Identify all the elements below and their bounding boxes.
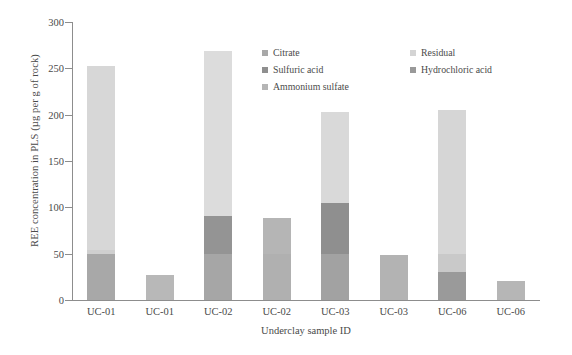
- bar-segment[interactable]: [87, 254, 115, 300]
- legend-item[interactable]: Residual: [410, 44, 492, 61]
- bar-segment[interactable]: [321, 254, 349, 300]
- y-tick-label: 100: [26, 202, 64, 213]
- legend-item-label: Sulfuric acid: [273, 64, 323, 75]
- y-tick-label: 300: [26, 17, 64, 28]
- bar-slot: [131, 22, 190, 300]
- stacked-bar[interactable]: [263, 218, 291, 300]
- bar-slot: [72, 22, 131, 300]
- legend-swatch-icon: [410, 50, 416, 56]
- bar-chart: REE concentration in PLS (µg per g of ro…: [0, 0, 572, 355]
- x-tick-label: UC-06: [482, 306, 541, 317]
- legend-column-2: ResidualHydrochloric acid: [410, 44, 492, 78]
- x-tick-label: UC-02: [189, 306, 248, 317]
- x-tick-label: UC-03: [306, 306, 365, 317]
- y-tick: [65, 22, 72, 23]
- legend-item[interactable]: Hydrochloric acid: [410, 61, 492, 78]
- bar-segment[interactable]: [87, 250, 115, 254]
- y-tick: [65, 161, 72, 162]
- stacked-bar[interactable]: [497, 281, 525, 300]
- bar-segment[interactable]: [321, 203, 349, 254]
- stacked-bar[interactable]: [87, 66, 115, 300]
- stacked-bar[interactable]: [146, 275, 174, 300]
- x-tick-label: UC-03: [365, 306, 424, 317]
- legend-swatch-icon: [262, 67, 268, 73]
- legend-column-1: CitrateSulfuric acidAmmonium sulfate: [262, 44, 349, 95]
- y-tick: [65, 115, 72, 116]
- stacked-bar[interactable]: [380, 255, 408, 300]
- y-tick: [65, 300, 72, 301]
- bar-segment[interactable]: [438, 254, 466, 273]
- legend-swatch-icon: [262, 50, 268, 56]
- legend-item[interactable]: Ammonium sulfate: [262, 78, 349, 95]
- y-tick-label: 50: [26, 248, 64, 259]
- y-tick-label: 250: [26, 63, 64, 74]
- bar-segment[interactable]: [497, 281, 525, 300]
- x-tick-label: UC-01: [131, 306, 190, 317]
- bar-segment[interactable]: [204, 254, 232, 300]
- y-tick-label: 200: [26, 109, 64, 120]
- y-axis-title: REE concentration in PLS (µg per g of ro…: [29, 21, 40, 281]
- y-tick: [65, 254, 72, 255]
- legend-item-label: Ammonium sulfate: [273, 81, 349, 92]
- legend-swatch-icon: [262, 84, 268, 90]
- bar-segment[interactable]: [204, 216, 232, 254]
- bar-segment[interactable]: [380, 255, 408, 300]
- bar-segment[interactable]: [146, 275, 174, 300]
- legend-item[interactable]: Sulfuric acid: [262, 61, 349, 78]
- legend-item-label: Hydrochloric acid: [421, 64, 492, 75]
- y-tick: [65, 68, 72, 69]
- legend-item[interactable]: Citrate: [262, 44, 349, 61]
- bar-segment[interactable]: [204, 51, 232, 216]
- x-axis-title: Underclay sample ID: [72, 325, 540, 336]
- stacked-bar[interactable]: [321, 112, 349, 300]
- y-tick-label: 150: [26, 156, 64, 167]
- y-tick: [65, 207, 72, 208]
- bar-segment[interactable]: [438, 272, 466, 300]
- legend-item-label: Citrate: [273, 47, 300, 58]
- bar-segment[interactable]: [263, 218, 291, 254]
- legend-swatch-icon: [410, 67, 416, 73]
- x-tick-label: UC-01: [72, 306, 131, 317]
- bar-slot: [189, 22, 248, 300]
- x-tick-label: UC-02: [248, 306, 307, 317]
- y-tick-label: 0: [26, 295, 64, 306]
- bar-segment[interactable]: [438, 110, 466, 254]
- stacked-bar[interactable]: [438, 110, 466, 300]
- bar-segment[interactable]: [263, 254, 291, 300]
- bar-segment[interactable]: [87, 66, 115, 250]
- legend-item-label: Residual: [421, 47, 455, 58]
- stacked-bar[interactable]: [204, 51, 232, 300]
- x-tick-label: UC-06: [423, 306, 482, 317]
- x-axis-line: [72, 300, 540, 301]
- bar-segment[interactable]: [321, 112, 349, 203]
